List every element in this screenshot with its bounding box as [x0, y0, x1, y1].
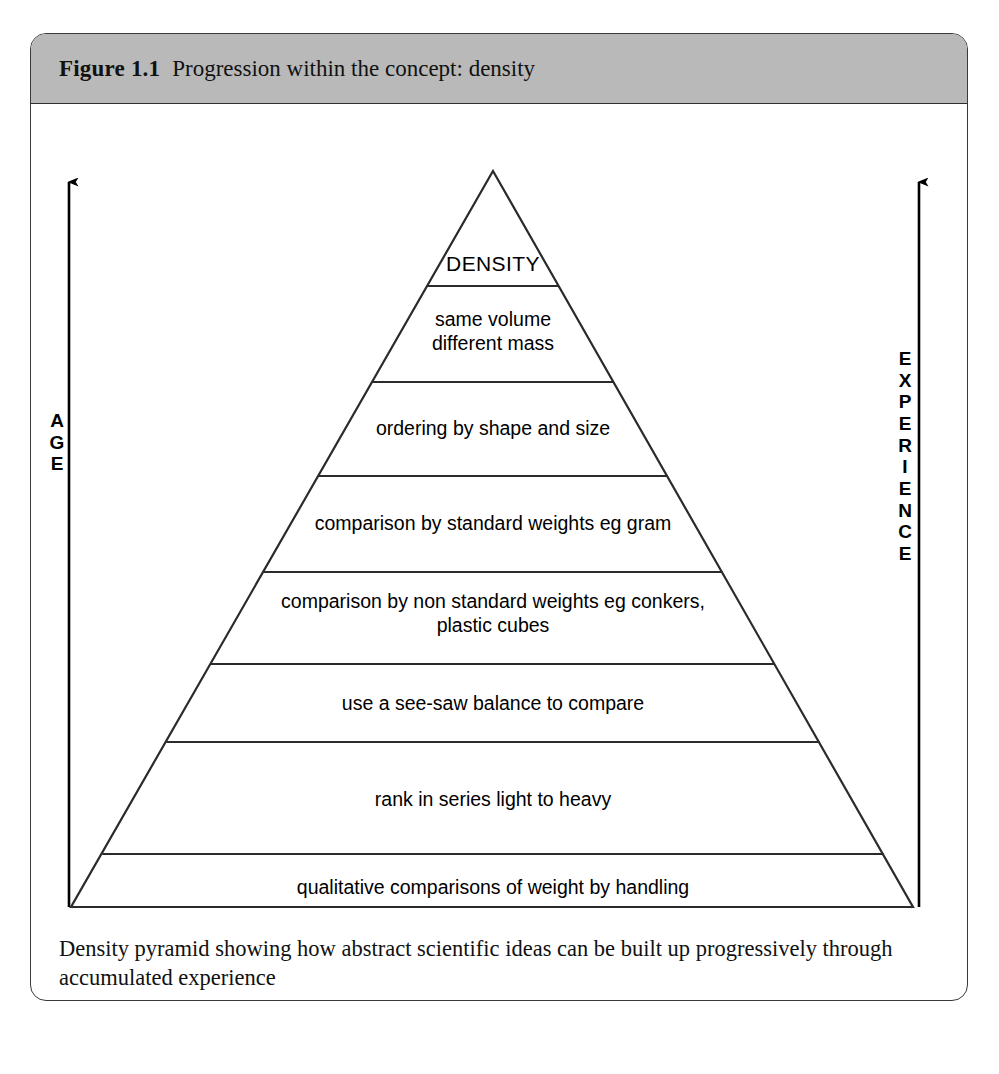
age-letter-a: A — [45, 410, 69, 432]
experience-letter-7: E — [893, 478, 917, 500]
pyramid-tier-5-line-1: comparison by non standard weights eg co… — [213, 590, 773, 614]
pyramid-tier-6-label: use a see-saw balance to compare — [342, 692, 644, 716]
age-letter-e: E — [45, 453, 69, 475]
experience-letter-6: I — [893, 456, 917, 478]
figure-caption: Density pyramid showing how abstract sci… — [59, 934, 939, 1001]
experience-axis-label: E X P E R I E N C E — [893, 348, 917, 565]
source-label: Source: — [59, 997, 124, 1002]
figure-title: Progression within the concept: density — [172, 56, 535, 81]
age-letter-g: G — [45, 431, 69, 453]
figure-number: Figure 1.1 — [59, 56, 160, 81]
pyramid-tier-3-label: ordering by shape and size — [376, 417, 610, 441]
source-year: (2003) — [268, 997, 324, 1002]
pyramid-tier-2-line-1: same volume — [363, 308, 623, 332]
figure-source-line: Source: Littledyke et al. (2003) — [59, 996, 939, 1002]
figure-caption-text: Density pyramid showing how abstract sci… — [59, 934, 939, 993]
pyramid-diagram: A G E E X P E R I E N C E DENSITY same v… — [31, 104, 968, 932]
pyramid-tier-4-label: comparison by standard weights eg gram — [315, 512, 672, 536]
pyramid-tier-5-line-2: plastic cubes — [213, 614, 773, 638]
experience-letter-8: N — [893, 499, 917, 521]
pyramid-tier-1-label: DENSITY — [446, 251, 540, 277]
experience-letter-10: E — [893, 543, 917, 565]
experience-letter-4: E — [893, 413, 917, 435]
figure-frame: Figure 1.1Progression within the concept… — [30, 33, 968, 1001]
source-author: Littledyke — [129, 997, 215, 1002]
experience-letter-9: C — [893, 521, 917, 543]
experience-letter-5: R — [893, 434, 917, 456]
pyramid-tier-7-label: rank in series light to heavy — [375, 788, 611, 812]
pyramid-tier-5-label: comparison by non standard weights eg co… — [213, 590, 773, 638]
figure-header-band: Figure 1.1Progression within the concept… — [31, 34, 967, 104]
experience-letter-3: P — [893, 391, 917, 413]
pyramid-tier-8-label: qualitative comparisons of weight by han… — [297, 876, 689, 900]
pyramid-tier-2-line-2: different mass — [363, 332, 623, 356]
experience-letter-1: E — [893, 348, 917, 370]
pyramid-tier-2-label: same volume different mass — [363, 308, 623, 356]
figure-header-text: Figure 1.1Progression within the concept… — [59, 56, 535, 82]
source-etal: et al. — [220, 997, 262, 1002]
experience-letter-2: X — [893, 369, 917, 391]
age-axis-label: A G E — [45, 410, 69, 475]
